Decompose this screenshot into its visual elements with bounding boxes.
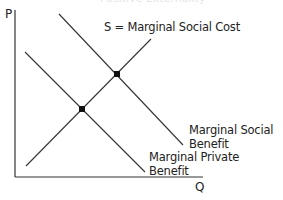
x-axis-label: Q bbox=[195, 181, 204, 194]
marginal-social-cost-curve bbox=[26, 39, 151, 166]
y-axis-label: P bbox=[5, 8, 12, 21]
mpb-label-line2: Benefit bbox=[149, 165, 189, 178]
social-optimum-point bbox=[114, 71, 120, 77]
msc-label: S = Marginal Social Cost bbox=[104, 21, 240, 34]
msb-label-line1: Marginal Social bbox=[189, 124, 273, 137]
mpb-label-line1: Marginal Private bbox=[149, 151, 239, 164]
market-equilibrium-point bbox=[79, 106, 85, 112]
